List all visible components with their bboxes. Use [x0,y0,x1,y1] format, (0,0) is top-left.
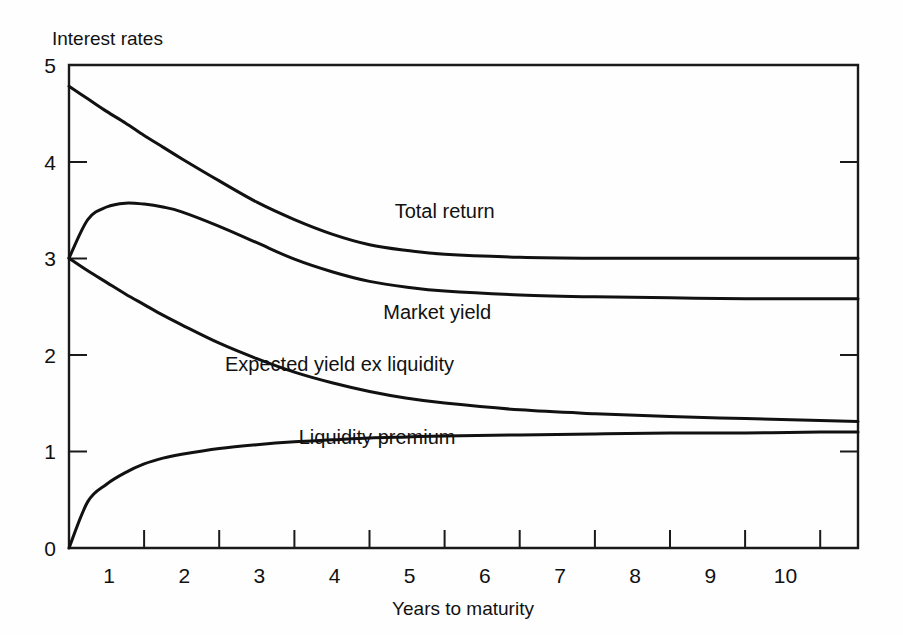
y-tick-label-4: 4 [44,151,56,174]
series-label-total-return: Total return [395,200,495,222]
y-tick-labels: 012345 [44,54,56,560]
y-axis-ticks [69,162,87,452]
curve-total-return [69,86,858,258]
x-tick-label-4: 4 [329,564,341,587]
x-tick-label-5: 5 [404,564,416,587]
x-axis-ticks [144,530,820,548]
x-tick-label-6: 6 [479,564,491,587]
x-tick-label-3: 3 [254,564,266,587]
x-tick-label-10: 10 [774,564,797,587]
y-axis-title: Interest rates [52,28,163,49]
y-tick-label-2: 2 [44,344,56,367]
x-tick-label-9: 9 [704,564,716,587]
chart-figure: 012345 12345678910 Total returnMarket yi… [0,0,903,635]
y-tick-label-1: 1 [44,440,56,463]
curve-expected-yield-ex-liquidity [69,258,858,421]
x-tick-label-8: 8 [629,564,641,587]
x-tick-labels: 12345678910 [103,564,797,587]
y-axis-right-ticks [840,162,858,452]
x-axis-title: Years to maturity [392,598,534,619]
y-tick-label-0: 0 [44,537,56,560]
series-label-expected-yield-ex-liquidity: Expected yield ex liquidity [225,353,454,375]
series-label-liquidity-premium: Liquidity premium [299,426,456,448]
x-tick-label-2: 2 [178,564,190,587]
series-label-market-yield: Market yield [383,301,491,323]
y-tick-label-5: 5 [44,54,56,77]
curve-liquidity-premium [69,432,858,548]
x-tick-label-1: 1 [103,564,115,587]
x-tick-label-7: 7 [554,564,566,587]
series-labels: Total returnMarket yieldExpected yield e… [225,200,495,448]
y-tick-label-3: 3 [44,247,56,270]
chart-canvas: 012345 12345678910 Total returnMarket yi… [0,0,903,635]
